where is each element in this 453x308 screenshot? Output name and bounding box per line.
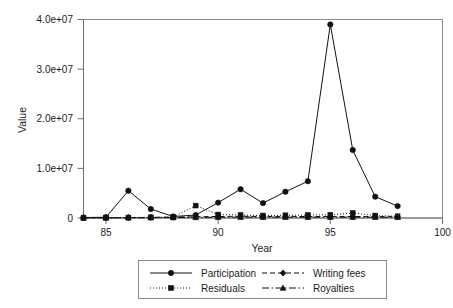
data-point [193,203,198,208]
legend-marker [168,270,173,275]
chart-legend: ParticipationResidualsWriting feesRoyalt… [139,261,387,299]
x-tick-label: 95 [325,227,337,238]
y-tick-label: 4.0e+07 [37,14,74,25]
series-layer [81,22,401,221]
y-tick-label: 0 [67,213,73,224]
legend-label: Writing fees [313,268,366,279]
data-point [260,200,265,205]
data-point [350,147,355,152]
legend-label: Royalties [313,283,354,294]
legend-label: Participation [201,268,256,279]
x-tick-label: 85 [100,227,112,238]
data-point [328,22,333,27]
y-tick-label: 1.0e+07 [37,163,74,174]
chart-figure: 01.0e+072.0e+073.0e+074.0e+07 859095100 … [0,0,453,308]
legend-marker [169,286,174,291]
data-point [193,212,198,217]
data-point [103,215,108,220]
data-point [148,206,153,211]
x-axis-title: Year [251,242,273,254]
y-axis-title: Value [16,107,28,133]
data-point [283,189,288,194]
y-tick-label: 3.0e+07 [37,64,74,75]
data-point [215,200,220,205]
data-point [81,215,86,220]
y-axis: 01.0e+072.0e+073.0e+074.0e+07 [37,14,84,224]
data-point [238,187,243,192]
line-chart: 01.0e+072.0e+073.0e+074.0e+07 859095100 … [0,0,453,308]
series-participation [81,22,401,220]
data-point [126,188,131,193]
x-tick-label: 90 [213,227,225,238]
data-point [305,179,310,184]
data-point [395,203,400,208]
legend-label: Residuals [201,283,245,294]
x-tick-label: 100 [434,227,451,238]
plot-area-border [84,20,443,219]
data-point [171,214,176,219]
data-point [372,194,377,199]
x-axis: 859095100 [84,218,452,238]
series-royalties [81,214,401,220]
y-tick-label: 2.0e+07 [37,113,74,124]
